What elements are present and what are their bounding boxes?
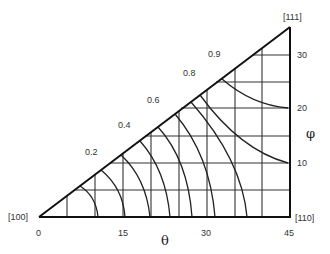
contour-label-0.8: 0.8 — [183, 68, 196, 78]
contour-0.9 — [222, 79, 288, 108]
corner-label-111: [111] — [283, 12, 302, 22]
contour-0.4 — [140, 141, 170, 217]
contour-0.7 — [191, 102, 247, 217]
corner-label-100: [100] — [8, 212, 28, 222]
x-tick-15: 15 — [118, 228, 128, 238]
contour-label-0.9: 0.9 — [208, 49, 221, 59]
contour-0.2 — [101, 170, 125, 217]
x-axis-theta-symbol: θ — [161, 233, 169, 248]
corner-label-110: [110] — [295, 213, 314, 223]
contour-label-0.2: 0.2 — [85, 147, 98, 157]
contour-label-0.6: 0.6 — [147, 95, 160, 105]
x-tick-0: 0 — [36, 228, 41, 238]
contour-0.5 — [158, 127, 192, 217]
x-tick-45: 45 — [284, 228, 294, 238]
contour-label-0.4: 0.4 — [118, 120, 131, 130]
x-tick-30: 30 — [201, 228, 211, 238]
y-tick-10: 10 — [297, 158, 307, 168]
y-tick-30: 30 — [297, 50, 307, 60]
y-tick-20: 20 — [297, 103, 307, 113]
stereographic-triangle-diagram: [100] [110] [111] 0 15 30 45 θ 10 20 30 … — [0, 0, 330, 254]
contour-0.8 — [200, 95, 288, 163]
contour-curves — [80, 79, 288, 217]
contour-0.3 — [121, 155, 150, 217]
y-axis-phi-symbol: φ — [306, 126, 315, 141]
